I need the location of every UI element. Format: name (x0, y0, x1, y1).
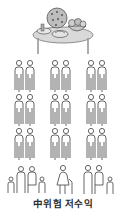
bottom-figures (6, 165, 122, 195)
food-table-icon (30, 2, 96, 54)
adult-pairs-grid-icon (12, 60, 116, 162)
caption-label: 中위험 저수익 (0, 196, 126, 210)
food-table-illustration (30, 2, 96, 54)
people-grid (12, 60, 116, 162)
families-elderly-icon (6, 165, 122, 195)
